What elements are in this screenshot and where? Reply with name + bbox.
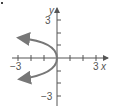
y-tick-label-3: 3: [45, 15, 51, 26]
bullet-dot: [1, 2, 3, 4]
curve-lower: [21, 58, 57, 79]
curve-upper: [20, 38, 57, 58]
graph: y 3 −3 −3 3 x: [0, 0, 113, 111]
x-tick-label-neg3: −3: [10, 61, 22, 72]
x-tick-label-3: 3: [93, 61, 99, 72]
y-tick-label-neg3: −3: [41, 91, 53, 102]
x-axis-label: x: [100, 61, 107, 72]
